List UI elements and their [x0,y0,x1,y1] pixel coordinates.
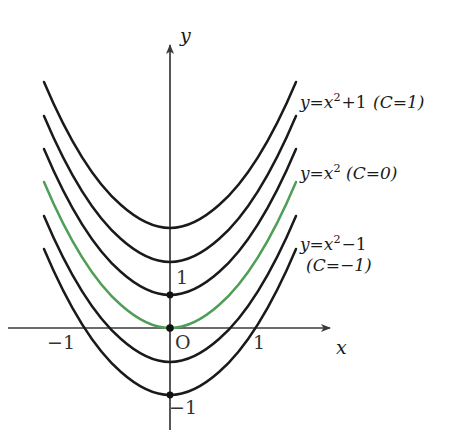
point-y-1 [167,292,174,299]
point-origin [166,324,174,332]
curve-label-c-minus-1-exp: 2 [333,233,340,246]
curve-label-c-minus-1-eq: =x [310,234,334,254]
curve-label-c-1: y=x2+1 (C=1) [300,92,424,113]
curve-label-c-0-exp: 2 [333,162,340,175]
parabola-family-figure: y x −1 1 O 1 −1 y=x2+1 (C=1) y=x2 (C=0) … [0,0,453,442]
x-axis-label: x [336,336,347,359]
x-tick-label-minus-1: −1 [47,331,75,354]
plot-canvas [0,0,453,442]
curve-label-c-minus-1-tail: −1 [341,234,368,254]
curve-label-c-minus-1-line2: (C=−1) [300,255,372,276]
curve-label-c-1-paren: (C=1) [373,92,424,112]
origin-label: O [175,331,191,354]
x-tick-label-1: 1 [253,331,265,354]
y-axis-label: y [180,24,191,47]
curve-label-c-1-y: y [300,92,310,112]
y-tick-label-1: 1 [176,266,188,289]
curve-label-c-1-tail: +1 [341,92,368,112]
y-tick-label-minus-1: −1 [169,396,197,419]
curve-label-c-0-eq: =x [310,163,334,183]
curve-label-c-minus-1-y: y [300,234,310,254]
curve-label-c-1-eq: =x [310,92,334,112]
curve-label-c-minus-1: y=x2−1 (C=−1) [300,234,372,275]
curve-label-c-1-exp: 2 [333,91,340,104]
curve-label-c-0-y: y [300,163,310,183]
axes-group [8,45,330,430]
curve-label-c-0: y=x2 (C=0) [300,163,397,184]
curve-label-c-0-paren: (C=0) [346,163,397,183]
